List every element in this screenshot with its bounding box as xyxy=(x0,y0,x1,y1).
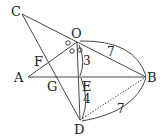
arc-DB-7 xyxy=(82,78,146,121)
measure-OB: 7 xyxy=(107,45,115,59)
segment-OD xyxy=(77,42,80,120)
measure-DB: 7 xyxy=(117,102,125,116)
geometry-diagram: C O A B E D F G 7 3 4 7 xyxy=(0,0,167,140)
label-C: C xyxy=(11,4,21,19)
label-A: A xyxy=(13,70,24,85)
label-D: D xyxy=(74,122,84,137)
label-B: B xyxy=(147,70,157,85)
label-F: F xyxy=(34,54,43,69)
measure-ED: 4 xyxy=(83,92,91,106)
angle-mark-icon xyxy=(66,41,70,45)
label-O: O xyxy=(71,26,82,41)
angle-mark-icon xyxy=(70,49,74,53)
label-G: G xyxy=(47,79,57,94)
measure-OE: 3 xyxy=(83,54,91,68)
